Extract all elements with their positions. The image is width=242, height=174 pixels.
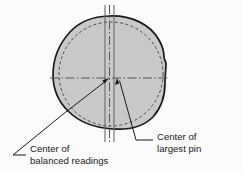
label-center-of-largest-pin-line1: Center of bbox=[157, 131, 197, 142]
diagram-canvas: Center of balanced readings Center of la… bbox=[0, 0, 242, 174]
label-center-of-balanced-readings-line1: Center of bbox=[30, 143, 70, 154]
label-center-of-balanced-readings-line2: balanced readings bbox=[30, 155, 109, 166]
technical-diagram-figure: Center of balanced readings Center of la… bbox=[0, 0, 242, 174]
label-center-of-largest-pin-line2: largest pin bbox=[157, 143, 201, 154]
